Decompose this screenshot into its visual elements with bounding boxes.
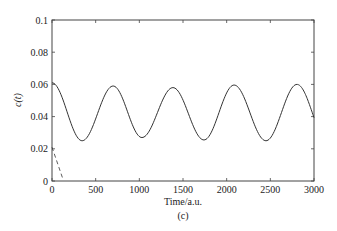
- x-tick-label: 500: [88, 184, 103, 195]
- y-tick-label: 0: [43, 176, 48, 187]
- x-tick-label: 2000: [217, 184, 237, 195]
- plot-area: 05001000150020002500300000.020.040.060.0…: [31, 15, 325, 196]
- y-tick-label: 0.08: [31, 47, 49, 58]
- chart: 05001000150020002500300000.020.040.060.0…: [0, 0, 337, 231]
- x-tick-label: 0: [50, 184, 55, 195]
- series-dashed-line: [52, 147, 62, 178]
- y-tick-label: 0.1: [36, 15, 49, 26]
- y-tick-label: 0.06: [31, 79, 49, 90]
- subtitle: (c): [177, 210, 188, 222]
- y-tick-label: 0.02: [31, 143, 49, 154]
- x-tick-label: 1500: [173, 184, 193, 195]
- y-tick-label: 0.04: [31, 111, 49, 122]
- x-tick-label: 1000: [129, 184, 149, 195]
- x-tick-label: 2500: [260, 184, 280, 195]
- y-axis-label: c(t): [12, 92, 24, 107]
- x-tick-label: 3000: [304, 184, 324, 195]
- series-solid-line: [52, 83, 314, 141]
- x-axis-label: Time/a.u.: [164, 196, 202, 207]
